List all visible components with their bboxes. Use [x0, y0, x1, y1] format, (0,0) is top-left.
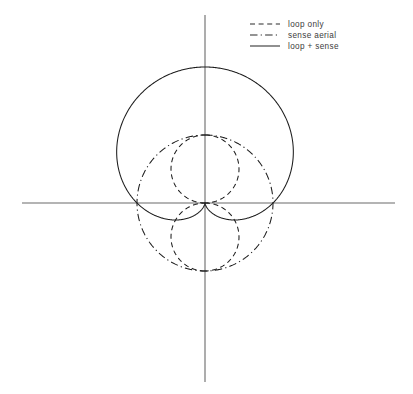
- legend-label-sense-aerial: sense aerial: [288, 31, 336, 40]
- legend-label-loop-only: loop only: [288, 20, 324, 29]
- axes-group: [22, 15, 395, 382]
- curve-loop-only: [171, 203, 205, 271]
- curve-loop-only: [205, 203, 239, 271]
- legend: loop onlysense aerialloop + sense: [250, 20, 339, 51]
- polar-plot-canvas: loop onlysense aerialloop + sense: [0, 0, 413, 394]
- polar-pattern-figure: loop onlysense aerialloop + sense: [0, 0, 413, 394]
- legend-label-loop-sense: loop + sense: [288, 42, 339, 51]
- curve-loop-only: [205, 135, 239, 203]
- curve-loop-only: [171, 135, 205, 203]
